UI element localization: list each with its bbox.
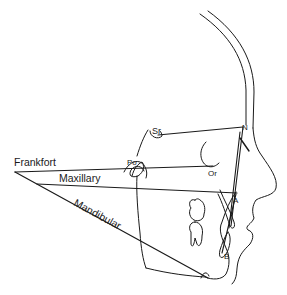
sella-turcica: Sr: [137, 126, 162, 156]
nasion-a-line: [231, 127, 243, 226]
maxillary-label: Maxillary: [59, 172, 101, 184]
porion-label: Po: [127, 158, 137, 167]
orbitale-label: Or: [208, 169, 217, 178]
nasion-a-line-2: [229, 132, 240, 228]
point-a-label: A: [233, 196, 239, 205]
point-b-label: B: [224, 252, 229, 261]
orbit-outline: [201, 142, 219, 167]
cranium-outline: [200, 11, 254, 128]
mandibular-label: Mandibular: [72, 196, 124, 232]
sella-nasion-line: [158, 127, 243, 135]
cephalometric-diagram: Sr N Or Frankfort Maxillary Mandibular P…: [0, 0, 287, 295]
frankfort-label: Frankfort: [14, 156, 56, 168]
ramus-border: [137, 176, 146, 268]
molar-teeth: [190, 199, 205, 246]
soft-tissue-profile: [232, 128, 276, 284]
